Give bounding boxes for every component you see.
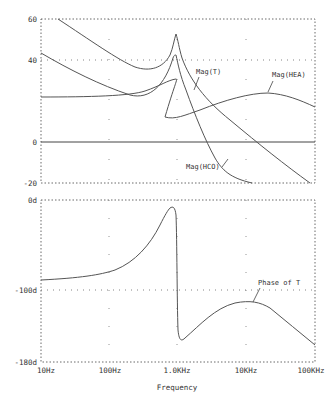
x-tick-1khz: 1.0KHz (163, 366, 190, 375)
x-axis-label: Frequency (157, 383, 198, 392)
label-mag-hea: Mag(HEA) (272, 71, 306, 79)
y-tick-neg180d: -180d (14, 358, 37, 367)
mag-t-curve (58, 19, 310, 183)
magnitude-plot: 60 40 0 -20 Mag(T) Mag(HEA) Mag(HCO) (23, 15, 315, 188)
bode-chart: 60 40 0 -20 Mag(T) Mag(HEA) Mag(HCO) 0d … (0, 0, 331, 403)
x-tick-100khz: 100KHz (297, 366, 324, 375)
x-tick-10khz: 10KHz (235, 366, 258, 375)
mag-hea-curve (41, 79, 315, 118)
y-tick-60: 60 (28, 15, 38, 24)
y-tick-0: 0 (32, 138, 37, 147)
label-mag-t: Mag(T) (196, 68, 221, 76)
y-tick-neg20: -20 (23, 179, 37, 188)
label-phase-of-t: Phase of T (258, 279, 301, 287)
y-tick-neg100d: -100d (14, 286, 37, 295)
y-tick-40: 40 (28, 56, 38, 65)
y-tick-0d: 0d (28, 196, 37, 205)
phase-of-t-curve (41, 207, 315, 345)
phase-plot: 0d -100d -180d Phase of T 10Hz 100Hz 1.0… (14, 196, 324, 392)
label-mag-hco: Mag(HCO) (186, 163, 220, 171)
x-tick-10hz: 10Hz (37, 366, 55, 375)
x-tick-100hz: 100Hz (99, 366, 122, 375)
